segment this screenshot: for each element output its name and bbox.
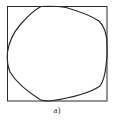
figure-caption: a) [0, 105, 114, 115]
inscribed-curve [7, 6, 107, 101]
